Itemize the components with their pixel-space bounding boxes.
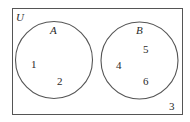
universe-label: U: [16, 11, 25, 23]
set-b-element: 4: [116, 59, 122, 71]
set-a-label: A: [49, 24, 57, 36]
set-b-element: 6: [143, 75, 149, 87]
set-a-element: 2: [57, 75, 63, 87]
set-b-label: B: [136, 24, 143, 36]
venn-diagram: U A 1 2 B 4 5 6 3: [0, 0, 190, 122]
set-b-element: 5: [143, 43, 149, 55]
set-a-element: 1: [31, 58, 37, 70]
universe-element: 3: [169, 100, 175, 112]
